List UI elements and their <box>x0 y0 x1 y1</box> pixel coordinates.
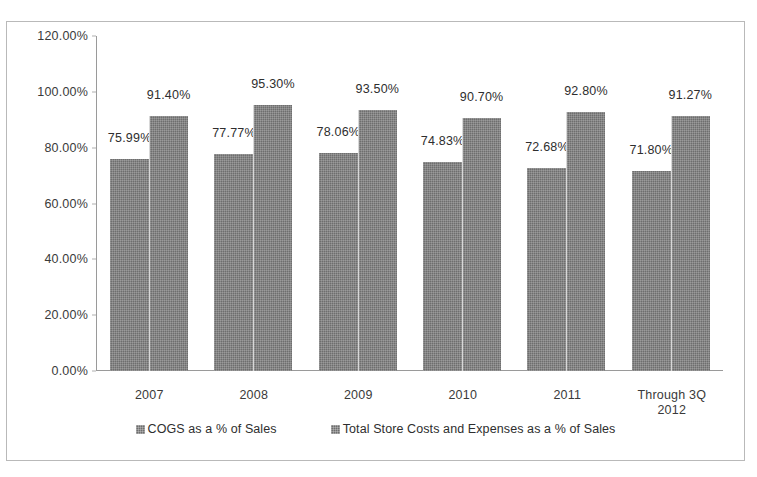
bar[interactable] <box>566 112 605 371</box>
bar-column[interactable]: 92.80% <box>566 36 605 371</box>
bar-group: 72.68%92.80% <box>514 36 618 371</box>
bar-column[interactable]: 91.27% <box>671 36 710 371</box>
bar-value-label: 90.70% <box>460 90 504 104</box>
bar-group: 75.99%91.40% <box>97 36 201 371</box>
legend-swatch-icon <box>136 425 145 434</box>
bar-value-label: 93.50% <box>356 82 400 96</box>
bar-value-label: 92.80% <box>564 84 608 98</box>
legend-label: COGS as a % of Sales <box>148 422 277 436</box>
bar[interactable] <box>253 105 292 371</box>
plot-area: 0.00%20.00%40.00%60.00%80.00%100.00%120.… <box>96 36 723 371</box>
bar-column[interactable]: 77.77% <box>214 36 253 371</box>
x-axis-category-label: 2011 <box>515 378 620 418</box>
y-axis-tick-label: 120.00% <box>37 29 88 43</box>
bar-column[interactable]: 72.68% <box>527 36 566 371</box>
bar-column[interactable]: 95.30% <box>253 36 292 371</box>
bar[interactable] <box>110 159 149 371</box>
y-axis-tick-mark <box>92 259 96 260</box>
bar-value-label: 77.77% <box>212 126 256 140</box>
legend-item[interactable]: Total Store Costs and Expenses as a % of… <box>331 422 616 436</box>
y-axis-tick-label: 80.00% <box>44 141 88 155</box>
bar-column[interactable]: 90.70% <box>462 36 501 371</box>
bar[interactable] <box>462 118 501 371</box>
bar-group: 74.83%90.70% <box>410 36 514 371</box>
bar-column[interactable]: 78.06% <box>319 36 358 371</box>
chart-frame: 0.00%20.00%40.00%60.00%80.00%100.00%120.… <box>6 21 745 461</box>
bar-value-label: 71.80% <box>629 143 673 157</box>
bar[interactable] <box>214 154 253 371</box>
x-axis-category-label: Through 3Q 2012 <box>620 378 725 418</box>
bar-value-label: 91.40% <box>147 88 191 102</box>
bar-value-label: 95.30% <box>251 77 295 91</box>
bar-value-label: 75.99% <box>108 131 152 145</box>
bar-value-label: 72.68% <box>525 140 569 154</box>
bar-group: 71.80%91.27% <box>619 36 723 371</box>
bar-column[interactable]: 71.80% <box>632 36 671 371</box>
y-axis-tick-mark <box>92 315 96 316</box>
bar-column[interactable]: 74.83% <box>423 36 462 371</box>
bar[interactable] <box>527 168 566 371</box>
x-axis-category-label: 2010 <box>411 378 516 418</box>
bar-group: 78.06%93.50% <box>306 36 410 371</box>
y-axis-tick-label: 20.00% <box>44 308 88 322</box>
legend-swatch-icon <box>331 425 340 434</box>
bar-value-label: 91.27% <box>668 88 712 102</box>
bar[interactable] <box>671 116 710 371</box>
y-axis-tick-mark <box>92 147 96 148</box>
x-axis-categories: 20072008200920102011Through 3Q 2012 <box>97 378 724 418</box>
legend-label: Total Store Costs and Expenses as a % of… <box>343 422 616 436</box>
x-axis-category-label: 2008 <box>202 378 307 418</box>
y-axis-tick-mark <box>92 203 96 204</box>
bar-value-label: 78.06% <box>317 125 361 139</box>
y-axis-tick-label: 100.00% <box>37 85 88 99</box>
bar[interactable] <box>632 171 671 371</box>
legend-item[interactable]: COGS as a % of Sales <box>136 422 277 436</box>
bar[interactable] <box>358 110 397 371</box>
y-axis-tick-mark <box>92 91 96 92</box>
bar[interactable] <box>423 162 462 371</box>
chart-legend: COGS as a % of SalesTotal Store Costs an… <box>7 422 744 436</box>
bar-groups: 75.99%91.40%77.77%95.30%78.06%93.50%74.8… <box>97 36 723 371</box>
x-axis-category-label: 2007 <box>97 378 202 418</box>
bar-group: 77.77%95.30% <box>201 36 305 371</box>
bar-column[interactable]: 93.50% <box>358 36 397 371</box>
bar-column[interactable]: 75.99% <box>110 36 149 371</box>
bar-column[interactable]: 91.40% <box>149 36 188 371</box>
bar[interactable] <box>149 116 188 371</box>
bar[interactable] <box>319 153 358 371</box>
y-axis-tick-label: 60.00% <box>44 197 88 211</box>
y-axis-tick-mark <box>92 371 96 372</box>
bar-value-label: 74.83% <box>421 134 465 148</box>
y-axis-tick-label: 0.00% <box>52 364 88 378</box>
y-axis-tick-mark <box>92 36 96 37</box>
x-axis-category-label: 2009 <box>306 378 411 418</box>
y-axis-tick-label: 40.00% <box>44 252 88 266</box>
